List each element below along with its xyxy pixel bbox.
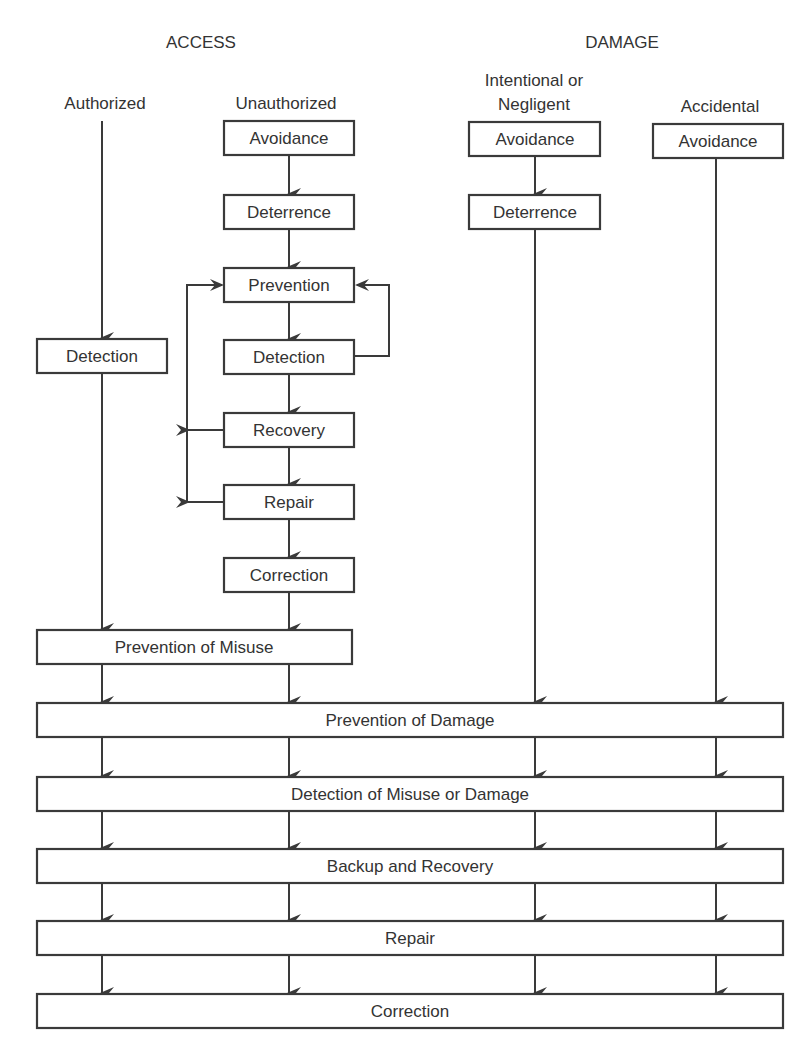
repair-box: Repair bbox=[37, 921, 783, 955]
unauth-prevention-label: Prevention bbox=[248, 276, 329, 295]
detection-of-misuse-or-damage-box: Detection of Misuse or Damage bbox=[37, 777, 783, 811]
arrows-repair-to-correction bbox=[102, 955, 716, 993]
unauth-recovery-label: Recovery bbox=[253, 421, 325, 440]
detection-of-misuse-or-damage-label: Detection of Misuse or Damage bbox=[291, 785, 529, 804]
int-avoidance-label: Avoidance bbox=[495, 130, 574, 149]
acc-avoidance-box: Avoidance bbox=[653, 124, 783, 158]
unauth-deterrence-box: Deterrence bbox=[224, 195, 354, 229]
unauthorized-label: Unauthorized bbox=[235, 94, 336, 113]
unauth-prevention-box: Prevention bbox=[224, 268, 354, 302]
unauth-correction-box: Correction bbox=[224, 558, 354, 592]
unauth-recovery-box: Recovery bbox=[224, 413, 354, 447]
correction-label: Correction bbox=[371, 1002, 449, 1021]
arrows-prev-damage-to-detection bbox=[102, 737, 716, 776]
correction-box: Correction bbox=[37, 994, 783, 1028]
int-avoidance-box: Avoidance bbox=[469, 122, 600, 156]
accidental-label: Accidental bbox=[681, 97, 759, 116]
access-header: ACCESS bbox=[166, 33, 236, 52]
unauth-avoidance-label: Avoidance bbox=[249, 129, 328, 148]
unauth-correction-label: Correction bbox=[250, 566, 328, 585]
backup-and-recovery-box: Backup and Recovery bbox=[37, 849, 783, 883]
prevention-of-misuse-box: Prevention of Misuse bbox=[37, 630, 352, 664]
repair-label: Repair bbox=[385, 929, 435, 948]
damage-header: DAMAGE bbox=[585, 33, 659, 52]
int-deterrence-label: Deterrence bbox=[493, 203, 577, 222]
unauth-deterrence-label: Deterrence bbox=[247, 203, 331, 222]
acc-avoidance-label: Avoidance bbox=[678, 132, 757, 151]
auth-detection-box: Detection bbox=[37, 339, 167, 373]
prevention-of-damage-box: Prevention of Damage bbox=[37, 703, 783, 737]
arrows-detection-to-backup bbox=[102, 811, 716, 848]
unauth-repair-label: Repair bbox=[264, 493, 314, 512]
authorized-label: Authorized bbox=[64, 94, 145, 113]
unauth-detection-box: Detection bbox=[224, 340, 354, 374]
loop-to-prevention-left bbox=[187, 285, 222, 502]
auth-detection-label: Detection bbox=[66, 347, 138, 366]
prevention-of-damage-label: Prevention of Damage bbox=[325, 711, 494, 730]
backup-and-recovery-label: Backup and Recovery bbox=[327, 857, 494, 876]
security-flow-diagram: ACCESS DAMAGE Authorized Unauthorized In… bbox=[0, 0, 809, 1061]
unauth-detection-label: Detection bbox=[253, 348, 325, 367]
prevention-of-misuse-label: Prevention of Misuse bbox=[115, 638, 274, 657]
intentional-label-line1: Intentional or bbox=[485, 71, 584, 90]
loop-detection-to-prevention bbox=[355, 285, 389, 356]
unauth-repair-box: Repair bbox=[224, 485, 354, 519]
int-deterrence-box: Deterrence bbox=[469, 195, 600, 229]
unauth-avoidance-box: Avoidance bbox=[224, 121, 354, 155]
arrows-backup-to-repair bbox=[102, 883, 716, 920]
intentional-label-line2: Negligent bbox=[498, 95, 570, 114]
